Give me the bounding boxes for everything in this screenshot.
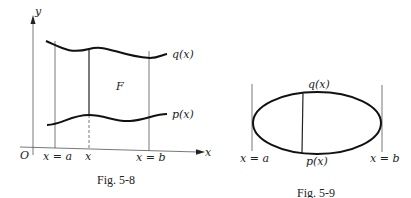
curve-q-label: q(x) (172, 48, 194, 61)
top-label: q(x) (308, 78, 330, 91)
tick-x-equals-b: x = b (136, 151, 165, 164)
figure-caption: Fig. 5-9 (297, 186, 335, 198)
figure-5-9: q(x) p(x) x = a x = b Fig. 5-9 (240, 78, 399, 198)
tick-x-equals-b: x = b (370, 152, 399, 165)
chord-x (302, 92, 303, 153)
y-axis-label: y (34, 5, 42, 18)
region-label: F (115, 80, 124, 93)
bottom-label: p(x) (306, 155, 328, 168)
diagram-canvas: y x O x = a x x = b F q(x) p(x) Fig. 5-8… (0, 0, 411, 198)
tick-x-equals-a: x = a (240, 152, 269, 165)
tick-x-equals-a: x = a (43, 150, 72, 163)
origin-label: O (20, 149, 29, 162)
ellipse-region (253, 92, 381, 154)
x-axis-arrow-icon (196, 149, 205, 154)
curve-p-label: p(x) (172, 108, 194, 121)
figure-caption: Fig. 5-8 (97, 173, 135, 187)
x-axis-label: x (205, 146, 212, 159)
tick-x: x (85, 150, 92, 163)
figure-5-8: y x O x = a x x = b F q(x) p(x) Fig. 5-8 (20, 5, 212, 187)
